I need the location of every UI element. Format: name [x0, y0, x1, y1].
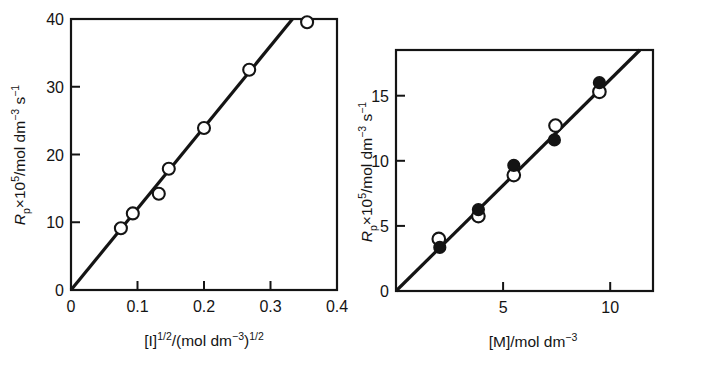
left-x-tick-label-2: 0.2	[193, 298, 215, 315]
panel-right-rate-vs-monomer: 5 10 0 5 10 15 [M]/mol dm−3 Rp×105/mol d…	[353, 0, 706, 369]
figure-two-panel-kinetics-plots: 0 0.1 0.2 0.3 0.4 0 10 20 30 40 [I]1/2/(…	[0, 0, 706, 369]
left-x-tick-label-1: 0.1	[126, 298, 148, 315]
right-y-title-times: ×10	[358, 198, 375, 225]
left-x-tick-label-4: 0.4	[326, 298, 348, 315]
right-x-tick-label-1: 10	[601, 299, 619, 316]
left-y-ticks	[71, 87, 80, 223]
left-y-tick-label-3: 30	[46, 79, 64, 96]
right-y-ticks	[396, 96, 405, 226]
left-y-title-unit2: s	[11, 97, 28, 109]
left-y-tick-label-1: 10	[46, 214, 64, 231]
right-y-axis-title: Rp×105/mol dm−3 s−1	[356, 102, 379, 242]
left-x-title-exp1: 1/2	[157, 330, 172, 342]
panel-left-rate-vs-sqrt-initiator: 0 0.1 0.2 0.3 0.4 0 10 20 30 40 [I]1/2/(…	[0, 0, 353, 369]
left-y-tick-label-4: 40	[46, 11, 64, 28]
right-x-tick-labels: 5 10	[499, 299, 620, 316]
right-x-tick-label-0: 5	[499, 299, 508, 316]
left-x-tick-label-0: 0	[67, 298, 76, 315]
right-y-title-exp3: −1	[356, 102, 368, 114]
right-x-title-slash: /mol dm	[510, 333, 565, 350]
right-x-title-exp: −3	[565, 331, 577, 343]
right-y-title-exp2: −3	[356, 126, 368, 138]
left-plot-frame	[71, 19, 337, 290]
left-y-tick-label-2: 20	[46, 147, 64, 164]
left-y-tick-label-0: 0	[55, 282, 64, 299]
left-plot-svg: 0 0.1 0.2 0.3 0.4 0 10 20 30 40 [I]1/2/(…	[0, 0, 353, 369]
left-y-axis-title: Rp×105/mol dm−3 s−1	[9, 85, 32, 225]
right-plot-svg: 5 10 0 5 10 15 [M]/mol dm−3 Rp×105/mol d…	[353, 0, 706, 369]
right-y-title-symbol: R	[358, 231, 375, 242]
right-y-tick-label-1: 5	[380, 218, 389, 235]
left-x-axis-title: [I]1/2/(mol dm−3)1/2	[144, 330, 264, 349]
right-x-title-species: M	[493, 333, 506, 350]
left-x-title-exp3: 1/2	[249, 330, 264, 342]
left-y-title-units: /mol dm	[11, 121, 28, 176]
left-y-tick-labels: 0 10 20 30 40	[46, 11, 64, 299]
right-y-tick-label-0: 0	[380, 283, 389, 300]
right-y-tick-label-3: 15	[371, 88, 389, 105]
left-x-ticks	[138, 281, 271, 290]
left-y-title-symbol: R	[11, 214, 28, 225]
left-fit-line	[71, 19, 293, 290]
left-x-tick-labels: 0 0.1 0.2 0.3 0.4	[67, 298, 349, 315]
left-y-title-times: ×10	[11, 181, 28, 208]
left-y-title-exp3: −1	[9, 85, 21, 97]
right-x-axis-title: [M]/mol dm−3	[489, 331, 578, 350]
left-y-title-exp2: −3	[9, 109, 21, 121]
right-y-title-unit2: s	[358, 114, 375, 126]
left-x-tick-label-3: 0.3	[259, 298, 281, 315]
right-y-title-units: /mol dm	[358, 138, 375, 193]
left-x-title-exp2: −3	[232, 330, 244, 342]
right-x-ticks	[503, 282, 610, 291]
left-x-title-slash: /(mol dm	[172, 332, 232, 349]
